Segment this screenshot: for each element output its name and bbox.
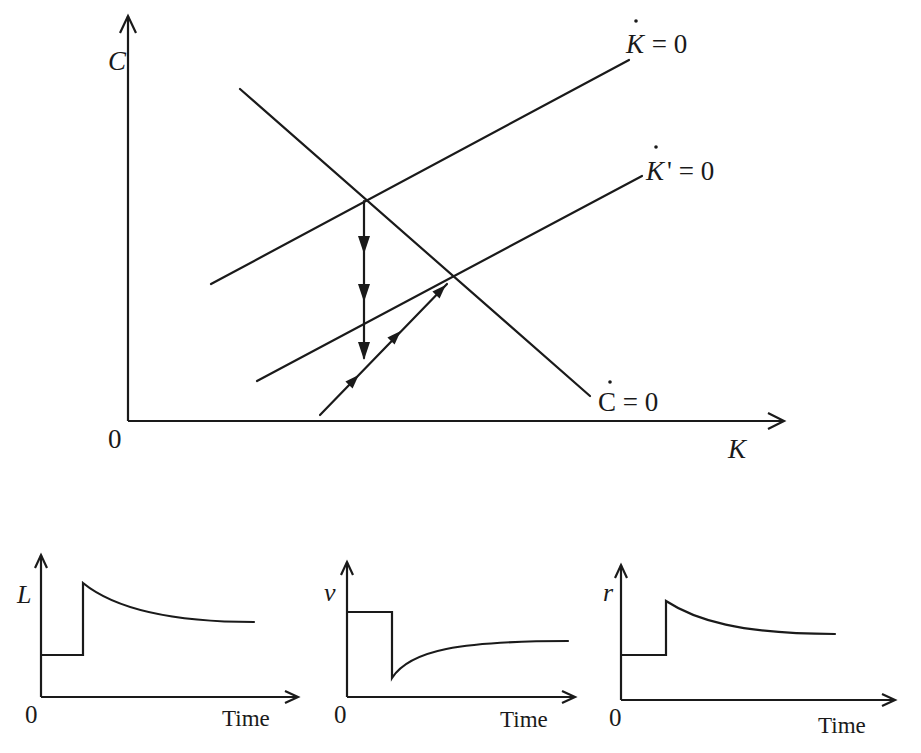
panel-origin-label: 0 bbox=[25, 701, 38, 728]
arrowhead-down-icon bbox=[358, 284, 370, 302]
interest-curve bbox=[621, 601, 835, 655]
svg-text:K: K bbox=[625, 29, 646, 59]
y-axis bbox=[120, 16, 136, 421]
main-phase-diagram: C 0 K K = 0 K ' = 0 C = 0 bbox=[108, 16, 784, 464]
k-dot-prime-zero-label: K ' = 0 bbox=[645, 145, 714, 186]
c-dot-zero-label: C = 0 bbox=[598, 380, 658, 417]
saddle-path bbox=[320, 281, 449, 415]
panel-interest: r 0 Time bbox=[603, 565, 895, 738]
dot-accent-icon bbox=[608, 380, 612, 384]
panel-y-label: v bbox=[324, 578, 336, 607]
panel-labor: L 0 Time bbox=[16, 555, 298, 731]
arrowhead-down-icon bbox=[358, 236, 370, 254]
svg-text:= 0: = 0 bbox=[672, 156, 714, 186]
svg-text:= 0: = 0 bbox=[645, 29, 687, 59]
arrowhead-down-icon bbox=[358, 342, 370, 360]
dot-accent-icon bbox=[654, 145, 658, 149]
panel-wage: v 0 Time bbox=[324, 562, 575, 732]
x-axis bbox=[128, 413, 784, 429]
k-dot-zero-line bbox=[211, 60, 629, 284]
y-axis-label: C bbox=[108, 46, 127, 76]
diagram-canvas: C 0 K K = 0 K ' = 0 C = 0 bbox=[0, 0, 921, 753]
wage-curve bbox=[347, 612, 568, 678]
k-dot-zero-label: K = 0 bbox=[625, 19, 687, 59]
dot-accent-icon bbox=[634, 19, 638, 23]
c-dot-zero-line bbox=[240, 89, 590, 396]
svg-text:C: C bbox=[598, 387, 616, 417]
jump-down-path bbox=[358, 201, 370, 360]
svg-text:= 0: = 0 bbox=[616, 387, 658, 417]
panel-origin-label: 0 bbox=[334, 701, 347, 728]
k-dot-prime-zero-line bbox=[257, 176, 642, 381]
x-axis-label: K bbox=[727, 434, 748, 464]
panel-y-label: r bbox=[603, 578, 614, 607]
panel-origin-label: 0 bbox=[609, 704, 622, 731]
origin-label: 0 bbox=[108, 424, 122, 454]
labor-curve bbox=[41, 583, 254, 655]
panel-y-label: L bbox=[16, 580, 31, 609]
svg-text:K: K bbox=[645, 156, 666, 186]
panel-x-label: Time bbox=[222, 706, 270, 731]
panel-x-label: Time bbox=[500, 707, 548, 732]
panel-x-label: Time bbox=[818, 713, 866, 738]
